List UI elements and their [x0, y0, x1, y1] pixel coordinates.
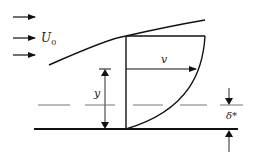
freestream-arrows [13, 17, 35, 55]
boundary-layer-edge-curve [49, 20, 205, 65]
arrow-down-icon [101, 122, 109, 129]
velocity-profile-curve [126, 36, 205, 129]
arrow-up-icon [225, 130, 233, 137]
displacement-thickness-label: δ* [226, 110, 237, 121]
height-label: y [93, 87, 101, 100]
arrow-up-icon [101, 69, 109, 76]
arrow-down-icon [225, 98, 233, 105]
local-velocity-label: v [161, 53, 168, 66]
freestream-velocity-label: U0 [41, 31, 56, 47]
boundary-layer-diagram: U0 v y δ* [0, 0, 255, 158]
